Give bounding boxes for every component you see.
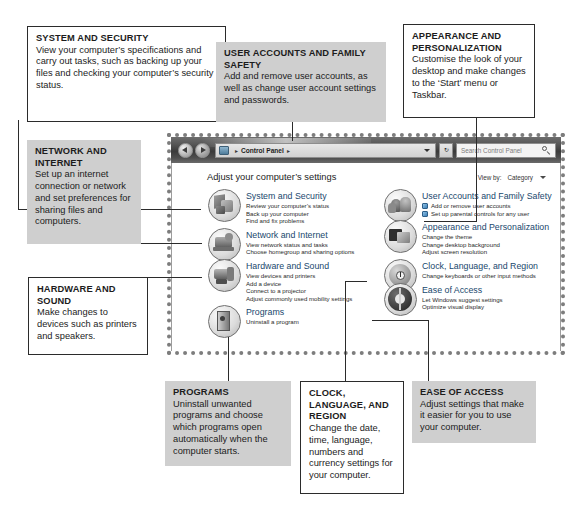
- back-arrow-glyph: [182, 147, 187, 153]
- programs-icon: [208, 305, 241, 338]
- callout-heading: APPEARANCE AND PERSONALIZATION: [412, 31, 527, 54]
- user-accounts-icon: [384, 189, 417, 222]
- control-panel-icon: [219, 146, 229, 155]
- leader-line-clock-h: [345, 281, 367, 282]
- figure-canvas: SYSTEM AND SECURITY View your computer’s…: [0, 0, 582, 510]
- callout-user-accounts-and-family-safety: USER ACCOUNTS AND FAMILY SAFETY Add and …: [216, 42, 386, 122]
- category-link[interactable]: Change the theme: [422, 233, 561, 241]
- system-and-security-icon: [208, 189, 241, 222]
- category-link[interactable]: View network status and tasks: [246, 241, 386, 249]
- leader-line-hardware-h: [148, 277, 202, 278]
- category-link[interactable]: Connect to a projector: [246, 287, 386, 295]
- search-placeholder: Search Control Panel: [461, 147, 542, 154]
- leader-line-user-accounts-v: [476, 118, 477, 222]
- leader-line-clock-v: [345, 281, 346, 381]
- window-title-bar: ▸ Control Panel ▸ ↻ Search Control Panel: [171, 137, 561, 163]
- control-panel-window: ▸ Control Panel ▸ ↻ Search Control Panel…: [167, 133, 565, 355]
- category-link-label: Add or remove user accounts: [431, 202, 511, 209]
- page-title: Adjust your computer’s settings: [207, 172, 336, 182]
- category-link[interactable]: Adjust screen resolution: [422, 248, 561, 256]
- callout-heading: USER ACCOUNTS AND FAMILY SAFETY: [224, 48, 379, 71]
- chevron-down-icon[interactable]: [424, 149, 430, 152]
- category-link[interactable]: Set up parental controls for any user: [422, 210, 561, 218]
- callout-ease-of-access: EASE OF ACCESS Adjust settings that make…: [412, 381, 536, 443]
- callout-heading: HARDWARE AND SOUND: [37, 284, 140, 307]
- callout-heading: EASE OF ACCESS: [420, 387, 529, 399]
- callout-hardware-and-sound: HARDWARE AND SOUND Make changes to devic…: [28, 277, 148, 355]
- category-link[interactable]: View devices and printers: [246, 272, 386, 280]
- callout-clock-language-and-region: CLOCK, LANGUAGE, AND REGION Change the d…: [300, 381, 404, 494]
- forward-arrow-icon[interactable]: [195, 143, 210, 158]
- category-clock-language-and-region[interactable]: Clock, Language, and Region Change keybo…: [380, 261, 561, 280]
- address-bar[interactable]: ▸ Control Panel ▸: [215, 143, 436, 158]
- category-link[interactable]: Find and fix problems: [246, 217, 386, 225]
- view-by-label: View by:: [478, 174, 502, 181]
- callout-heading: NETWORK AND INTERNET: [35, 146, 134, 169]
- breadcrumb-separator-left: ▸: [235, 147, 238, 154]
- ease-of-access-icon: [384, 283, 417, 316]
- appearance-icon: [384, 220, 417, 253]
- callout-heading: CLOCK, LANGUAGE, AND REGION: [309, 388, 396, 423]
- callout-body: Set up an internet connection or network…: [35, 169, 134, 228]
- category-link[interactable]: Change keyboards or other input methods: [422, 272, 561, 280]
- category-ease-of-access[interactable]: Ease of Access Let Windows suggest setti…: [380, 285, 561, 311]
- category-link[interactable]: Let Windows suggest settings: [422, 296, 561, 304]
- category-link[interactable]: Review your computer’s status: [246, 202, 386, 210]
- callout-programs: PROGRAMS Uninstall unwanted programs and…: [165, 381, 291, 466]
- window-client-area: Adjust your computer’s settings View by:…: [171, 163, 561, 351]
- breadcrumb-separator-right[interactable]: ▸: [287, 147, 290, 154]
- hardware-and-sound-icon: [208, 259, 241, 292]
- callout-body: Add and remove user accounts, as well as…: [224, 71, 379, 106]
- category-title[interactable]: User Accounts and Family Safety: [422, 191, 561, 202]
- forward-arrow-glyph: [201, 147, 206, 153]
- callout-body: Uninstall unwanted programs and choose w…: [173, 399, 284, 458]
- view-by-value[interactable]: Category: [507, 174, 533, 181]
- shield-icon: [422, 211, 428, 217]
- callout-heading: PROGRAMS: [173, 387, 284, 399]
- category-system-and-security[interactable]: System and Security Review your computer…: [204, 191, 386, 225]
- leader-line-programs-v: [228, 337, 229, 381]
- view-by-control[interactable]: View by: Category: [478, 174, 546, 181]
- category-title[interactable]: Clock, Language, and Region: [422, 261, 561, 272]
- category-network-and-internet[interactable]: Network and Internet View network status…: [204, 230, 386, 256]
- category-title[interactable]: Programs: [246, 307, 386, 318]
- category-link[interactable]: Adjust commonly used mobility settings: [246, 295, 386, 303]
- callout-heading: SYSTEM AND SECURITY: [36, 33, 218, 45]
- category-user-accounts-and-family-safety[interactable]: User Accounts and Family Safety Add or r…: [380, 191, 561, 217]
- category-link-label: Set up parental controls for any user: [431, 210, 529, 217]
- category-title[interactable]: Appearance and Personalization: [422, 222, 561, 233]
- leader-line-network-h: [140, 243, 202, 244]
- category-programs[interactable]: Programs Uninstall a program: [204, 307, 386, 326]
- category-title[interactable]: Network and Internet: [246, 230, 386, 241]
- search-icon[interactable]: [542, 146, 551, 155]
- leader-line-ease-v: [428, 320, 429, 381]
- callout-body: Customise the look of your desktop and m…: [412, 54, 527, 101]
- category-appearance-and-personalization[interactable]: Appearance and Personalization Change th…: [380, 222, 561, 256]
- callout-appearance-and-personalization: APPEARANCE AND PERSONALIZATION Customise…: [403, 24, 535, 118]
- network-and-internet-icon: [208, 228, 241, 261]
- callout-network-and-internet: NETWORK AND INTERNET Set up an internet …: [27, 140, 141, 244]
- callout-body: Make changes to devices such as printers…: [37, 307, 140, 342]
- refresh-button[interactable]: ↻: [439, 143, 453, 158]
- search-input[interactable]: Search Control Panel: [456, 143, 556, 158]
- category-link[interactable]: Optimize visual display: [422, 303, 561, 311]
- breadcrumb-control-panel[interactable]: Control Panel: [241, 147, 284, 154]
- callout-body: View your computer’s specifications and …: [36, 45, 218, 92]
- category-link[interactable]: Add or remove user accounts: [422, 202, 561, 210]
- category-title[interactable]: Hardware and Sound: [246, 261, 386, 272]
- callout-body: Adjust settings that make it easier for …: [420, 399, 529, 434]
- category-column-left: System and Security Review your computer…: [204, 191, 386, 331]
- category-column-right: User Accounts and Family Safety Add or r…: [380, 191, 561, 316]
- category-link[interactable]: Choose homegroup and sharing options: [246, 248, 386, 256]
- back-arrow-icon[interactable]: [178, 143, 193, 158]
- callout-body: Change the date, time, language, numbers…: [309, 423, 396, 482]
- category-link[interactable]: Change desktop background: [422, 241, 561, 249]
- shield-icon: [422, 203, 428, 209]
- category-link[interactable]: Back up your computer: [246, 210, 386, 218]
- leader-line-ease-h: [372, 320, 429, 321]
- category-link[interactable]: Uninstall a program: [246, 318, 386, 326]
- chevron-down-icon[interactable]: [540, 176, 546, 179]
- category-title[interactable]: Ease of Access: [422, 285, 561, 296]
- category-title[interactable]: System and Security: [246, 191, 386, 202]
- callout-system-and-security: SYSTEM AND SECURITY View your computer’s…: [27, 26, 226, 122]
